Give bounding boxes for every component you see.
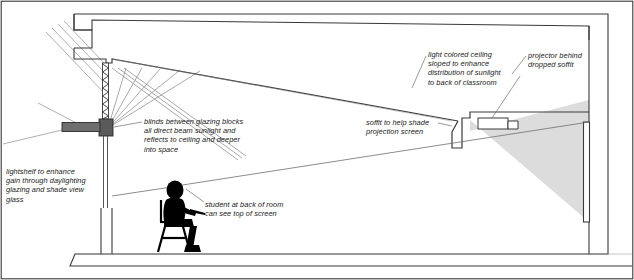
view-glass (104, 136, 108, 208)
roof-line (74, 14, 589, 40)
parapet-left (74, 14, 92, 48)
lightshelf-leader (3, 130, 62, 144)
student-foot (184, 245, 201, 252)
annotation-ceiling: light colored ceiling sloped to enhance … (428, 50, 501, 87)
annotation-student: student at back of room can see top of s… (205, 200, 283, 218)
student-figure (163, 181, 201, 253)
leader-projector (512, 56, 526, 74)
sun-ray-group-incoming (46, 21, 106, 95)
projection-screen (584, 122, 590, 222)
leader-soffit (438, 123, 452, 126)
annotation-projector: projector behind dropped soffit (528, 51, 582, 69)
lightshelf-wall-block (99, 119, 113, 136)
projector-body (478, 118, 508, 129)
architectural-section-drawing: blinds between glazing blocks all direct… (0, 0, 634, 280)
leader-blinds (114, 122, 142, 127)
sun-ray-incoming-1 (46, 32, 106, 95)
projector-lens (508, 121, 518, 129)
annotation-lightshelf: lightshelf to enhance gain through dayli… (6, 167, 86, 204)
lightshelf-fin (62, 123, 100, 132)
ceiling-upper-edge (112, 59, 452, 121)
leader-ceiling (412, 56, 426, 88)
left-sill-wall (101, 208, 112, 254)
glazing-block-with-blinds (103, 63, 109, 119)
projector (478, 118, 518, 129)
sun-ray-incoming-4 (64, 21, 106, 65)
student-head (167, 181, 184, 200)
leader-student (186, 189, 204, 202)
sun-ray-incoming-3 (58, 24, 106, 74)
floor-slab-underside (70, 254, 632, 266)
annotation-soffit: soffit to help shade projection screen (366, 118, 429, 136)
annotation-blinds: blinds between glazing blocks all direct… (144, 117, 243, 154)
section-drawing-svg (0, 0, 634, 280)
